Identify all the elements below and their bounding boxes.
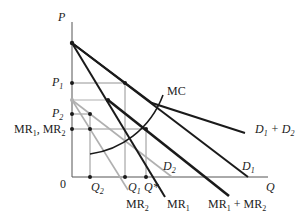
y-axis-label: P — [57, 10, 66, 24]
p2-label: P2 — [51, 106, 63, 122]
mr1-label: MR1 — [167, 197, 190, 213]
diagram-canvas: P Q 0 P1 P2 MR1, MR2 Q2 Q1 Q* MC D1 + D2… — [0, 0, 308, 221]
mr-level-label: MR1, MR2 — [14, 122, 65, 138]
d1-label: D1 — [241, 159, 255, 175]
x-axis-label: Q — [266, 180, 275, 194]
economics-diagram: P Q 0 P1 P2 MR1, MR2 Q2 Q1 Q* MC D1 + D2… — [0, 0, 308, 221]
mc-label: MC — [167, 84, 186, 98]
qstar-label: Q* — [144, 180, 159, 194]
guide-lines — [72, 83, 146, 177]
d1-plus-d2-label: D1 + D2 — [254, 122, 294, 138]
q2-label: Q2 — [91, 180, 104, 196]
mr2-label: MR2 — [126, 197, 149, 213]
d2-label: D2 — [162, 159, 176, 175]
p1-label: P1 — [51, 75, 63, 91]
gray-point — [70, 98, 74, 102]
mr1-plus-mr2-label: MR1 + MR2 — [208, 197, 266, 213]
origin-label: 0 — [60, 177, 66, 191]
q1-label: Q1 — [128, 180, 141, 196]
